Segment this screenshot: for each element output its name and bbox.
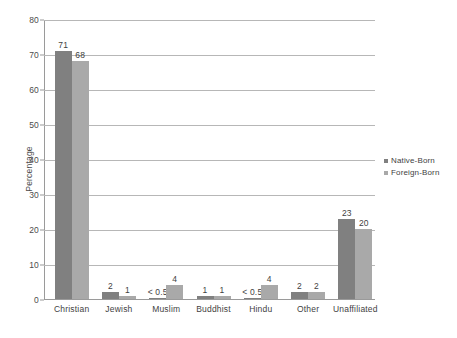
y-tick-label: 50 [29,120,39,130]
bar[interactable]: 1 [119,296,136,300]
x-tick-label: Muslim [152,304,180,314]
bar[interactable]: 2 [102,292,119,299]
legend-label: Native-Born [391,156,435,165]
x-axis-line [44,299,375,300]
legend-swatch-icon [384,171,388,175]
y-tick-mark [40,20,44,21]
y-tick-mark [40,55,44,56]
bar-value-label: 1 [125,285,130,295]
bar-value-label: < 0.5 [242,287,262,297]
y-tick-mark [40,90,44,91]
bar[interactable]: 2 [308,292,325,299]
bar[interactable]: 68 [72,61,89,299]
bar-value-label: 20 [359,218,369,228]
bar[interactable]: 23 [338,219,355,300]
bar-value-label: 4 [172,274,177,284]
y-tick-label: 80 [29,15,39,25]
bar-value-label: 68 [75,50,85,60]
bar-group: 11Buddhist [197,19,231,299]
chart-figure: Percentage 01020304050607080 7168Christi… [0,0,457,338]
y-tick-label: 10 [29,260,39,270]
y-tick-mark [40,300,44,301]
legend-label: Foreign-Born [391,168,440,177]
bar[interactable]: 2 [291,292,308,299]
plot-area: 01020304050607080 7168Christian21Jewish<… [44,20,375,300]
x-tick-label: Unaffiliated [333,304,378,314]
bar[interactable]: 71 [55,51,72,300]
y-tick-mark [40,265,44,266]
bar-value-label: 71 [58,40,68,50]
bar-value-label: 1 [203,285,208,295]
bar-value-label: 4 [267,274,272,284]
y-tick-mark [40,160,44,161]
y-tick-label: 20 [29,225,39,235]
bar-group: < 0.54Hindu [244,19,278,299]
bar-group: < 0.54Muslim [149,19,183,299]
y-tick-label: 40 [29,155,39,165]
bar-value-label: 1 [220,285,225,295]
bar-value-label: 2 [314,281,319,291]
y-tick-mark [40,195,44,196]
bar[interactable]: 1 [214,296,231,300]
y-axis-title: Percentage [24,146,34,191]
legend-swatch-icon [384,159,388,163]
bar-group: 2320Unaffiliated [338,19,372,299]
bar[interactable]: < 0.5 [244,298,261,300]
bar-value-label: 23 [342,208,352,218]
bar-value-label: < 0.5 [148,287,168,297]
bar[interactable]: 4 [261,285,278,299]
bar[interactable]: < 0.5 [149,298,166,300]
y-tick-label: 30 [29,190,39,200]
x-tick-label: Christian [54,304,89,314]
y-tick-label: 70 [29,50,39,60]
y-tick-mark [40,230,44,231]
bar-group: 21Jewish [102,19,136,299]
y-tick-mark [40,125,44,126]
x-tick-label: Jewish [105,304,132,314]
legend: Native-BornForeign-Born [384,156,440,180]
bar-value-label: 2 [297,281,302,291]
legend-item[interactable]: Native-Born [384,156,440,165]
bar[interactable]: 20 [355,229,372,299]
legend-item[interactable]: Foreign-Born [384,168,440,177]
bar[interactable]: 1 [197,296,214,300]
bar-value-label: 2 [108,281,113,291]
bar-group: 7168Christian [55,19,89,299]
bar[interactable]: 4 [166,285,183,299]
x-tick-label: Hindu [249,304,272,314]
y-tick-label: 0 [34,295,39,305]
x-tick-label: Other [297,304,319,314]
bar-group: 22Other [291,19,325,299]
x-tick-label: Buddhist [196,304,231,314]
y-tick-label: 60 [29,85,39,95]
